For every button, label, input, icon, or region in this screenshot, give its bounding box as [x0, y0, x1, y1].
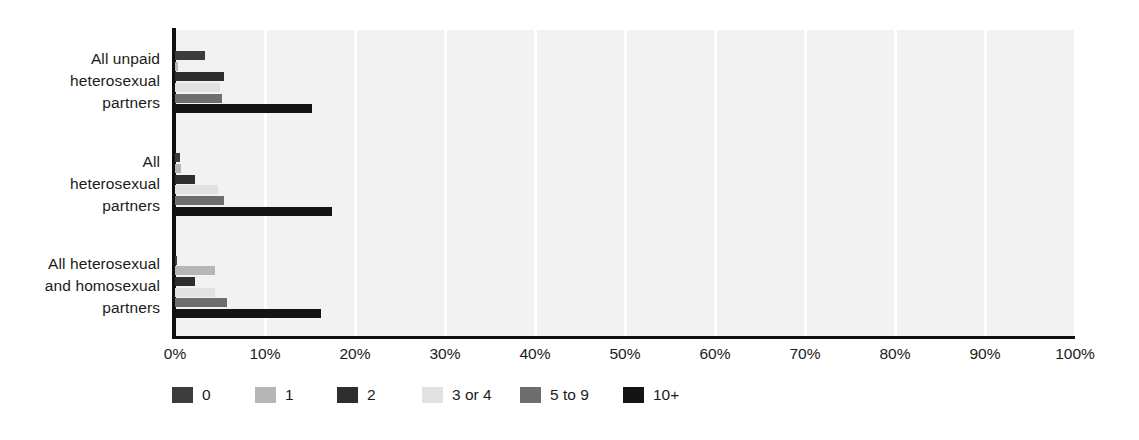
legend-item-1[interactable]: 1: [255, 386, 294, 404]
legend-item-0[interactable]: 0: [172, 386, 211, 404]
bar-10+-group-2: [175, 207, 332, 216]
bar-0-group-3: [175, 256, 177, 265]
bar-3-or-4-group-1: [175, 83, 220, 92]
bar-0-group-2: [175, 153, 180, 162]
bar-1-group-1: [175, 62, 178, 71]
bar-group-2: [0, 153, 1139, 216]
legend-swatch-icon-0: [172, 387, 193, 403]
bar-10+-group-3: [175, 309, 321, 318]
bar-5-to-9-group-3: [175, 298, 227, 307]
legend-swatch-icon-5-to-9: [520, 387, 541, 403]
bar-2-group-2: [175, 175, 195, 184]
x-tick-70pct: 70%: [789, 344, 820, 364]
x-tick-40pct: 40%: [519, 344, 550, 364]
legend-label: 3 or 4: [452, 386, 492, 404]
bar-5-to-9-group-1: [175, 94, 222, 103]
x-tick-100pct: 100%: [1055, 344, 1095, 364]
x-tick-10pct: 10%: [249, 344, 280, 364]
legend-item-10+[interactable]: 10+: [623, 386, 679, 404]
x-tick-50pct: 50%: [609, 344, 640, 364]
legend-item-3-or-4[interactable]: 3 or 4: [422, 386, 492, 404]
bar-2-group-1: [175, 72, 224, 81]
legend-label: 10+: [653, 386, 679, 404]
legend-swatch-icon-1: [255, 387, 276, 403]
x-tick-20pct: 20%: [339, 344, 370, 364]
bar-0-group-1: [175, 51, 205, 60]
bar-1-group-3: [175, 266, 215, 275]
x-tick-30pct: 30%: [429, 344, 460, 364]
bar-3-or-4-group-2: [175, 185, 218, 194]
x-tick-90pct: 90%: [969, 344, 1000, 364]
bar-1-group-2: [175, 164, 181, 173]
x-axis-line: [172, 336, 1075, 339]
legend-label: 5 to 9: [550, 386, 589, 404]
x-tick-60pct: 60%: [699, 344, 730, 364]
legend-label: 1: [285, 386, 294, 404]
legend-item-5-to-9[interactable]: 5 to 9: [520, 386, 589, 404]
bar-5-to-9-group-2: [175, 196, 224, 205]
legend-label: 2: [367, 386, 376, 404]
x-tick-80pct: 80%: [879, 344, 910, 364]
legend-swatch-icon-2: [337, 387, 358, 403]
legend-swatch-icon-3-or-4: [422, 387, 443, 403]
legend-label: 0: [202, 386, 211, 404]
bar-2-group-3: [175, 277, 195, 286]
bar-3-or-4-group-3: [175, 288, 215, 297]
x-axis-tick-labels: 0%10%20%30%40%50%60%70%80%90%100%: [0, 344, 1139, 368]
horizontal-bar-chart: All unpaidheterosexualpartnersAllheteros…: [0, 0, 1139, 440]
x-tick-0pct: 0%: [164, 344, 186, 364]
bar-group-1: [0, 51, 1139, 114]
legend-item-2[interactable]: 2: [337, 386, 376, 404]
bar-10+-group-1: [175, 104, 312, 113]
bar-group-3: [0, 256, 1139, 319]
legend-swatch-icon-10+: [623, 387, 644, 403]
